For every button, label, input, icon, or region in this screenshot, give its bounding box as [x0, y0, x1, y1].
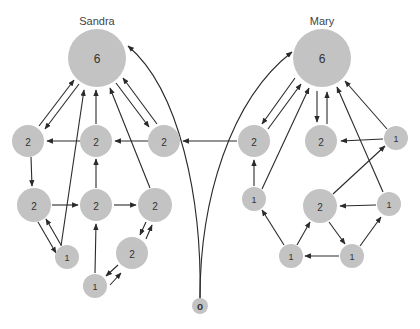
origin-node: o — [192, 298, 208, 314]
mary-node-1-left: 1 — [242, 187, 266, 211]
svg-text:1: 1 — [251, 195, 256, 205]
sandra-node-2-mid-right: 2 — [138, 188, 172, 222]
svg-text:1: 1 — [393, 134, 398, 144]
sandra-node-2-right: 2 — [148, 125, 180, 157]
sandra-node-6: 6 — [68, 29, 126, 87]
mary-title: Mary — [310, 15, 335, 27]
sandra-node-1-bottom: 1 — [83, 274, 107, 298]
svg-text:2: 2 — [25, 137, 31, 148]
svg-text:2: 2 — [317, 202, 323, 213]
sandra-node-2-bottom: 2 — [116, 237, 148, 269]
svg-text:6: 6 — [319, 52, 326, 66]
svg-text:1: 1 — [349, 252, 354, 262]
sandra-node-1-left: 1 — [55, 245, 79, 269]
svg-text:2: 2 — [251, 137, 257, 148]
svg-text:1: 1 — [92, 282, 97, 292]
svg-text:2: 2 — [93, 201, 99, 212]
sandra-node-2-mid-left: 2 — [17, 188, 51, 222]
mary-node-1-bottom-right: 1 — [340, 244, 364, 268]
mary-node-6: 6 — [293, 29, 351, 87]
svg-text:2: 2 — [31, 201, 37, 212]
svg-text:6: 6 — [94, 52, 101, 66]
svg-text:2: 2 — [152, 201, 158, 212]
mary-node-1-bottom-left: 1 — [279, 244, 303, 268]
sandra-node-2-mid-center: 2 — [80, 189, 112, 221]
svg-text:1: 1 — [386, 200, 391, 210]
sandra-node-2-center: 2 — [80, 125, 112, 157]
svg-text:1: 1 — [288, 252, 293, 262]
svg-text:2: 2 — [318, 137, 324, 148]
mary-edges — [183, 78, 387, 256]
sandra-title: Sandra — [79, 15, 115, 27]
svg-text:2: 2 — [129, 249, 135, 260]
mary-node-2-left: 2 — [238, 125, 270, 157]
mary-node-1-mid-right: 1 — [377, 192, 401, 216]
mary-node-2-mid: 2 — [303, 189, 337, 223]
origin-edges — [128, 46, 292, 298]
sandra-mary-network-diagram: Sandra Mary — [0, 0, 420, 329]
sandra-node-2-left: 2 — [12, 125, 44, 157]
svg-text:1: 1 — [64, 253, 69, 263]
svg-text:2: 2 — [161, 137, 167, 148]
svg-text:o: o — [197, 301, 203, 312]
svg-text:2: 2 — [93, 137, 99, 148]
mary-node-2-center: 2 — [305, 125, 337, 157]
mary-node-1-right: 1 — [384, 126, 408, 150]
